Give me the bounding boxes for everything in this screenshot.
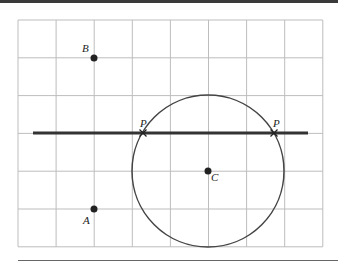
bottom-border bbox=[18, 260, 338, 261]
point-label-A: A bbox=[82, 214, 90, 226]
intersection-label-2: P bbox=[272, 117, 280, 129]
point-label-B: B bbox=[82, 42, 89, 54]
point-label-C: C bbox=[211, 171, 219, 183]
intersection-label-1: P bbox=[139, 117, 147, 129]
point-A bbox=[91, 206, 98, 213]
geometry-figure: BACPP bbox=[0, 0, 338, 263]
point-B bbox=[91, 55, 98, 62]
